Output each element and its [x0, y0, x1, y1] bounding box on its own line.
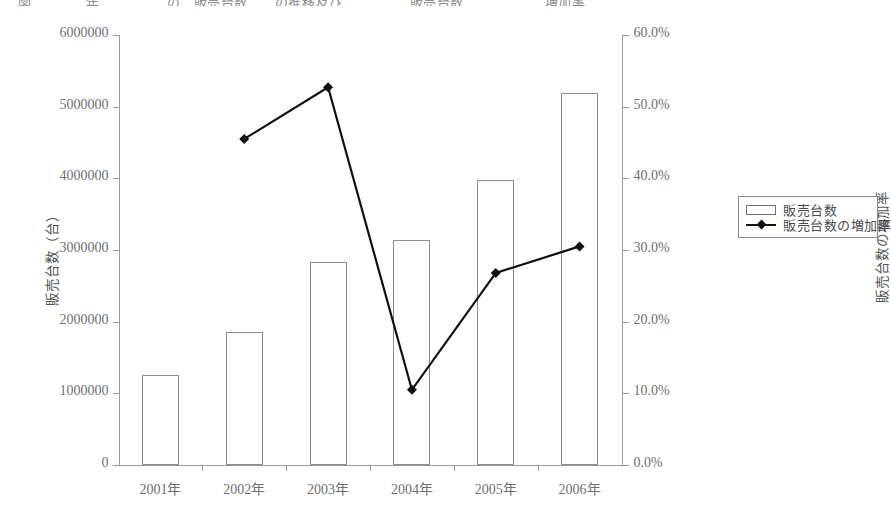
x-tick-label-2: 2003年 — [283, 478, 373, 498]
x-tick-label-3: 2004年 — [367, 478, 457, 498]
x-tick-label-0: 2001年 — [115, 478, 205, 498]
left-tick-label-1: 1000000 — [18, 383, 109, 399]
line-marker-0 — [239, 134, 249, 144]
right-tick-label-1: 10.0% — [634, 383, 704, 399]
x-tick-mark-3 — [370, 466, 371, 471]
right-tick-label-0: 0.0% — [634, 455, 704, 471]
right-tick-label-2: 20.0% — [634, 312, 704, 328]
right-tick-mark — [623, 393, 629, 394]
x-tick-mark-4 — [454, 466, 455, 471]
x-tick-label-1: 2002年 — [199, 478, 289, 498]
line-series-layer — [0, 0, 891, 514]
left-axis-line — [119, 35, 120, 466]
bar-swatch-icon — [746, 205, 776, 215]
left-tick-mark — [113, 250, 119, 251]
right-tick-label-6: 60.0% — [634, 25, 704, 41]
x-tick-label-4: 2005年 — [451, 478, 541, 498]
bar-2002年 — [226, 332, 263, 465]
left-axis-title: 販売台数（台） — [41, 208, 61, 306]
left-tick-label-3: 3000000 — [18, 240, 109, 256]
x-tick-label-5: 2006年 — [535, 478, 625, 498]
right-tick-mark — [623, 465, 629, 466]
chart-legend: 販売台数販売台数の増加率 — [738, 196, 878, 238]
line-marker-1 — [323, 82, 333, 92]
right-tick-mark — [623, 35, 629, 36]
right-tick-mark — [623, 178, 629, 179]
bar-2001年 — [142, 375, 179, 465]
left-tick-label-5: 5000000 — [18, 97, 109, 113]
sales-chart: 図 年 の 販売台数 の推移及び 販売台数 増加率 販売台数（台） 販売台数の増… — [0, 0, 891, 514]
x-tick-mark-5 — [538, 466, 539, 471]
left-tick-label-0: 0 — [18, 455, 109, 471]
left-tick-mark — [113, 393, 119, 394]
bar-2004年 — [393, 240, 430, 465]
left-tick-label-2: 2000000 — [18, 312, 109, 328]
chart-title-cropped: 図 年 の 販売台数 の推移及び 販売台数 増加率 — [18, 0, 873, 6]
left-tick-label-6: 6000000 — [18, 25, 109, 41]
x-tick-mark-2 — [286, 466, 287, 471]
right-tick-mark — [623, 322, 629, 323]
legend-item-label: 販売台数の増加率 — [783, 215, 891, 234]
left-tick-label-4: 4000000 — [18, 168, 109, 184]
line-diamond-icon — [746, 220, 776, 230]
right-tick-label-5: 50.0% — [634, 97, 704, 113]
x-tick-mark-1 — [202, 466, 203, 471]
left-tick-mark — [113, 107, 119, 108]
right-tick-mark — [623, 250, 629, 251]
bar-2003年 — [310, 262, 347, 465]
left-tick-mark — [113, 178, 119, 179]
right-tick-mark — [623, 107, 629, 108]
bar-2005年 — [477, 180, 514, 465]
left-tick-mark — [113, 465, 119, 466]
left-tick-mark — [113, 35, 119, 36]
right-tick-label-4: 40.0% — [634, 168, 704, 184]
left-tick-mark — [113, 322, 119, 323]
legend-item-1: 販売台数の増加率 — [746, 217, 869, 232]
right-tick-label-3: 30.0% — [634, 240, 704, 256]
bar-2006年 — [561, 93, 598, 465]
